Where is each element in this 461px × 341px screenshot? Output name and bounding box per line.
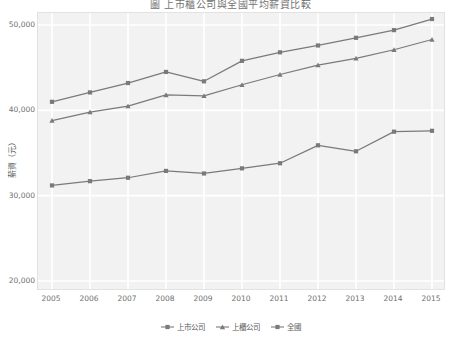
x-axis-tick: 2005 [41,294,60,303]
legend-square-marker-icon [161,323,174,331]
legend-label: 上櫃公司 [232,321,260,332]
x-axis-tick: 2012 [307,294,326,303]
series-lines [38,13,444,289]
y-axis-tick-labels: 20,00030,00040,00050,000 [0,0,35,341]
legend-label: 全國 [287,321,301,332]
x-axis-tick: 2014 [383,294,402,303]
legend-triangle-marker-icon [216,323,229,331]
legend-item[interactable]: 全國 [271,321,301,332]
y-axis-tick: 40,000 [1,105,35,114]
chart-title: 圖 上市櫃公司與全國平均薪資比較 [0,0,461,11]
chart-legend: 上市公司上櫃公司全國 [0,321,461,332]
x-axis-tick: 2007 [117,294,136,303]
legend-item[interactable]: 上櫃公司 [216,321,260,332]
y-axis-tick: 20,000 [1,276,35,285]
x-axis-tick: 2013 [345,294,364,303]
x-axis-tick: 2015 [421,294,440,303]
x-axis-tick: 2006 [79,294,98,303]
legend-square-marker-icon [271,323,284,331]
x-axis-tick: 2011 [269,294,288,303]
x-axis-tick: 2008 [155,294,174,303]
y-axis-tick: 30,000 [1,190,35,199]
legend-item[interactable]: 上市公司 [161,321,205,332]
chart-figure: 圖 上市櫃公司與全國平均薪資比較 薪資（元） 20,00030,00040,00… [0,0,461,341]
x-axis-tick: 2009 [193,294,212,303]
legend-label: 上市公司 [177,321,205,332]
x-axis-tick: 2010 [231,294,250,303]
y-axis-tick: 50,000 [1,20,35,29]
plot-area [37,12,445,290]
